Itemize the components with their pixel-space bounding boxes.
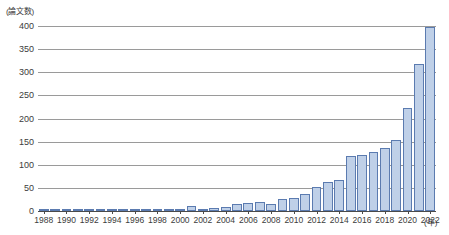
x-axis-tick [408,211,409,214]
x-axis-tick [226,211,227,214]
x-axis-tick-label: 2006 [239,216,258,225]
y-axis-tick-label: 400 [0,22,34,31]
x-axis-tick [362,211,363,214]
x-axis-tick [89,211,90,214]
x-axis-tick [339,211,340,214]
x-axis-tick-label: 1998 [148,216,167,225]
y-axis-tick-labels: 050100150200250300350400 [0,0,34,235]
x-axis-tick-label: 2008 [262,216,281,225]
bar-2007 [255,202,265,211]
x-axis-tick-label: 2012 [307,216,326,225]
bar-2009 [278,199,288,211]
y-axis-tick-label: 150 [0,137,34,146]
x-axis-tick [203,211,204,214]
x-axis-tick [157,211,158,214]
x-axis-unit-label: (年) [424,216,437,227]
x-axis-tick-label: 2004 [216,216,235,225]
bar-2014 [334,180,344,211]
x-axis-tick [112,211,113,214]
x-axis-tick-label: 1988 [34,216,53,225]
x-axis-tick-label: 2018 [375,216,394,225]
bar-2013 [323,182,333,211]
x-axis-tick [248,211,249,214]
x-axis-tick [430,211,431,214]
bar-2006 [243,203,253,211]
y-axis-tick-label: 350 [0,45,34,54]
paper-count-bar-chart: (論文数) 050100150200250300350400 198819901… [0,0,449,235]
x-axis-line [38,211,436,212]
bar-2020 [403,108,413,211]
x-axis-tick [294,211,295,214]
x-axis-tick [385,211,386,214]
y-axis-tick-label: 250 [0,91,34,100]
bar-2016 [357,155,367,211]
x-axis-tick [44,211,45,214]
x-axis-tick-label: 2020 [398,216,417,225]
x-axis-tick-label: 2000 [171,216,190,225]
bar-2012 [312,187,322,211]
x-axis-tick-label: 2016 [353,216,372,225]
y-axis-tick-label: 0 [0,207,34,216]
bar-2011 [300,194,310,211]
x-axis-tick [317,211,318,214]
bars-container [38,26,436,211]
bar-2021 [414,64,424,211]
x-axis-tick-label: 2010 [284,216,303,225]
x-axis-tick [271,211,272,214]
x-axis-tick-labels: 1988199019921994199619982000200220042006… [0,216,449,230]
bar-2019 [391,140,401,211]
bar-2018 [380,148,390,211]
x-axis-tick [66,211,67,214]
x-axis-tick [135,211,136,214]
y-axis-tick-label: 100 [0,160,34,169]
bar-2005 [232,204,242,211]
plot-area [38,26,436,211]
x-axis-tick-label: 2014 [330,216,349,225]
bar-2015 [346,156,356,212]
bar-2022 [425,27,435,211]
y-axis-tick-label: 200 [0,114,34,123]
y-axis-tick-label: 50 [0,183,34,192]
y-axis-tick-label: 300 [0,68,34,77]
bar-2008 [266,204,276,211]
x-axis-tick-label: 1990 [57,216,76,225]
x-axis-tick-label: 2002 [193,216,212,225]
bar-2017 [369,152,379,211]
x-axis-tick-label: 1992 [80,216,99,225]
x-axis-tick-label: 1996 [125,216,144,225]
x-axis-tick-label: 1994 [102,216,121,225]
x-axis-tick [180,211,181,214]
bar-2010 [289,198,299,211]
